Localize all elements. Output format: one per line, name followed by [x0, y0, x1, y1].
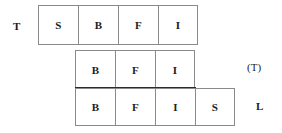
tier-2-right-label: (T) — [247, 62, 261, 73]
tier-1-left-label: T — [13, 21, 20, 32]
tier-1-cell-3: F — [118, 5, 158, 45]
tier-row-1: S B F I — [38, 5, 198, 45]
tier-3-cell-3: I — [155, 88, 195, 126]
tier-3-cell-1: B — [75, 88, 115, 126]
tier-1-cell-2: B — [78, 5, 118, 45]
tier-3-cell-4: S — [195, 88, 235, 126]
tier-diagram: T S B F I B F I (T) B F I S L — [0, 0, 282, 133]
tier-2-cell-2: F — [115, 50, 155, 88]
tier-1-cell-4: I — [158, 5, 198, 45]
tier-2-cell-1: B — [75, 50, 115, 88]
tier-1-cell-1: S — [38, 5, 78, 45]
tier-row-3: B F I S — [75, 88, 235, 126]
tier-3-cell-2: F — [115, 88, 155, 126]
tier-row-2: B F I — [75, 50, 195, 88]
tier-2-cell-3: I — [155, 50, 195, 88]
tier-3-right-label: L — [256, 101, 263, 112]
